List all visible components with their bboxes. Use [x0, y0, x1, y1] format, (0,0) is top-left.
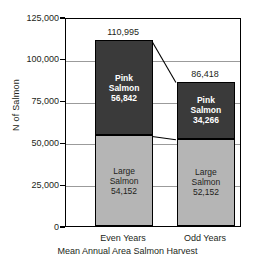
- y-tick-label-125000: 125,000: [13, 14, 59, 23]
- bar-segment-large-salmon-even[interactable]: Large Salmon 54,152: [95, 135, 153, 226]
- segment-name-line2: Salmon: [191, 105, 222, 115]
- y-tick-label-50000: 50,000: [13, 139, 59, 148]
- segment-value: 54,152: [111, 186, 137, 196]
- salmon-harvest-chart: N of Salmon 125,000 100,000 75,000 50,00…: [0, 0, 255, 269]
- segment-name-line2: Salmon: [191, 177, 220, 187]
- segment-name-line1: Large: [195, 167, 217, 177]
- bar-total-even-years: 110,995: [83, 28, 163, 37]
- segment-name-line2: Salmon: [110, 176, 139, 186]
- y-tick-label-25000: 25,000: [13, 181, 59, 190]
- y-tick-label-100000: 100,000: [13, 55, 59, 64]
- bar-segment-large-salmon-odd[interactable]: Large Salmon 52,152: [177, 139, 235, 226]
- segment-name-line1: Large: [113, 166, 135, 176]
- bar-total-odd-years: 86,418: [165, 70, 245, 79]
- plot-area: Large Salmon 54,152 Pink Salmon 56,842 L…: [65, 18, 241, 227]
- segment-name-line1: Pink: [115, 73, 133, 83]
- bar-odd-years[interactable]: Large Salmon 52,152 Pink Salmon 34,266: [177, 82, 235, 226]
- y-tick-label-0: 0: [13, 223, 59, 232]
- x-axis-title: Mean Annual Area Salmon Harvest: [0, 246, 255, 256]
- bar-segment-pink-salmon-even[interactable]: Pink Salmon 56,842: [95, 40, 153, 135]
- bar-segment-pink-salmon-odd[interactable]: Pink Salmon 34,266: [177, 82, 235, 139]
- y-axis-tick-labels: 125,000 100,000 75,000 50,000 25,000 0: [13, 0, 59, 269]
- bar-even-years[interactable]: Large Salmon 54,152 Pink Salmon 56,842: [95, 40, 153, 226]
- segment-name-line1: Pink: [197, 95, 215, 105]
- y-tick-label-75000: 75,000: [13, 97, 59, 106]
- segment-value: 56,842: [111, 93, 137, 103]
- x-axis-label-odd-years: Odd Years: [165, 233, 245, 243]
- segment-value: 34,266: [193, 115, 219, 125]
- segment-name-line2: Salmon: [109, 83, 140, 93]
- x-axis-label-even-years: Even Years: [83, 233, 163, 243]
- segment-value: 52,152: [193, 187, 219, 197]
